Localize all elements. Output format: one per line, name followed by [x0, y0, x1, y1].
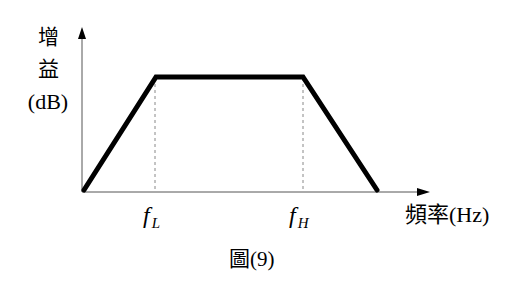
y-axis-arrow-icon — [78, 27, 86, 39]
frequency-response-figure: 增 益 (dB) fL fH 頻率(Hz) 圖(9) — [0, 0, 525, 290]
x-axis-label: 頻率(Hz) — [405, 202, 489, 227]
response-curve — [84, 77, 377, 190]
y-axis-unit: (dB) — [28, 89, 68, 114]
tick-fh: fH — [289, 202, 310, 231]
y-label-char-2: 益 — [38, 57, 59, 81]
y-label-char-1: 增 — [38, 25, 59, 49]
figure-caption: 圖(9) — [229, 247, 275, 271]
x-axis-arrow-icon — [417, 188, 430, 196]
chart-canvas: 增 益 (dB) fL fH 頻率(Hz) 圖(9) — [0, 0, 525, 290]
tick-fl: fL — [143, 202, 160, 231]
